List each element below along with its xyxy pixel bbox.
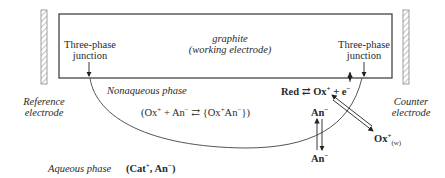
reference-electrode-label: Reference electrode	[14, 96, 74, 118]
working-electrode-label: graphite (working electrode)	[175, 33, 285, 55]
reference-electrode-bar	[41, 10, 47, 84]
redox-arrow-icon: ⇄	[302, 86, 311, 97]
anion-aqueous-label: An−	[311, 153, 328, 164]
reference-electrode-line1: Reference	[14, 96, 74, 107]
nonaqueous-phase-label: Nonaqueous phase	[107, 85, 187, 96]
left-junction-label: Three-phase junction	[60, 39, 120, 61]
counter-electrode-line2: electrode	[381, 107, 441, 118]
working-electrode-role: (working electrode)	[175, 44, 285, 55]
ox-aqueous-label: Ox+(w)	[374, 133, 401, 144]
counter-electrode-line1: Counter	[381, 96, 441, 107]
reference-electrode-line2: electrode	[14, 107, 74, 118]
right-junction-label: Three-phase junction	[334, 39, 394, 61]
counter-electrode-label: Counter electrode	[381, 96, 441, 118]
redox-reaction: Red ⇄ Ox+ + e−	[281, 86, 350, 97]
diagram-graphics	[0, 0, 445, 178]
anion-organic-label: An−	[311, 107, 328, 118]
ion-pair-equilibrium: (Ox+ + An− ⇄ {Ox+An−})	[141, 107, 250, 118]
left-junction-line2: junction	[60, 50, 120, 61]
left-junction-line1: Three-phase	[60, 39, 120, 50]
working-electrode-name: graphite	[175, 33, 285, 44]
right-junction-line1: Three-phase	[334, 39, 394, 50]
right-junction-line2: junction	[334, 50, 394, 61]
aqueous-electrolyte: (Cat+, An−)	[126, 163, 175, 174]
counter-electrode-bar	[403, 10, 409, 84]
equilibrium-arrow-icon: ⇄	[191, 107, 200, 118]
aqueous-phase-label: Aqueous phase	[48, 163, 111, 174]
